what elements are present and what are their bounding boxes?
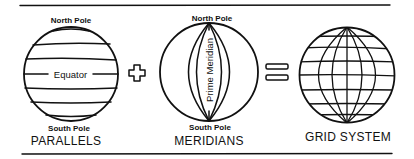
parallel-line bbox=[53, 29, 89, 31]
meridians-caption: MERIDIANS bbox=[174, 134, 243, 148]
prime-meridian-label: Prime Meridian bbox=[204, 38, 215, 102]
parallel-line bbox=[46, 115, 96, 117]
bottom-rule bbox=[22, 154, 392, 155]
parallel-line bbox=[31, 102, 111, 103]
parallels-north-pole-label: North Pole bbox=[51, 16, 92, 25]
plus-sign-icon bbox=[129, 65, 145, 81]
meridians-south-pole-label: South Pole bbox=[189, 123, 231, 132]
parallel-line bbox=[26, 58, 116, 60]
parallel-line bbox=[25, 88, 117, 89]
globe-grid-diagram: North Pole Equator South Pole PARALLELS … bbox=[0, 0, 414, 159]
meridians-north-pole-label: North Pole bbox=[192, 14, 233, 23]
parallels-globe: North Pole Equator South Pole PARALLELS bbox=[24, 16, 118, 148]
grid-system-globe: GRID SYSTEM bbox=[298, 27, 396, 144]
equals-sign-icon bbox=[266, 64, 288, 80]
top-rule bbox=[20, 5, 390, 6]
parallels-south-pole-label: South Pole bbox=[48, 124, 90, 133]
meridians-globe: Prime Meridian North Pole South Pole MER… bbox=[160, 14, 258, 148]
parallel-line bbox=[33, 43, 110, 45]
parallels-caption: PARALLELS bbox=[31, 134, 102, 148]
equator-label: Equator bbox=[54, 69, 87, 80]
grid-system-caption: GRID SYSTEM bbox=[305, 130, 391, 144]
